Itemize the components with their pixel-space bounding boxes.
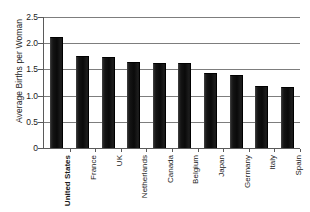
plot-area [44, 17, 300, 148]
y-axis-tick-label: 1.5 [18, 65, 38, 73]
x-axis-category-label: UK [113, 155, 126, 166]
y-axis-tick-labels: 2.52.01.51.00.50 [18, 0, 38, 212]
x-axis-category-label: Spain [292, 155, 305, 175]
x-axis-category-label: Japan [215, 155, 228, 177]
chart-title [0, 0, 310, 6]
y-axis-tick-mark [38, 148, 43, 149]
bar[interactable] [255, 86, 268, 148]
x-axis-category-label: France [87, 155, 100, 180]
y-axis-tick-label: 2.0 [18, 39, 38, 47]
x-axis-tick-mark [70, 149, 71, 152]
y-axis-tick-label: 0.5 [18, 118, 38, 126]
x-axis-category-label: Germany [241, 155, 254, 188]
x-axis-category-label: United States [61, 155, 74, 206]
gridline [44, 17, 300, 18]
y-axis-tick-label: 2.5 [18, 13, 38, 21]
x-axis-tick-mark [223, 149, 224, 152]
y-axis-tick-mark [38, 122, 43, 123]
y-axis-tick-mark [38, 17, 43, 18]
bar[interactable] [281, 87, 294, 148]
x-axis-category-label: Belgium [189, 155, 202, 184]
x-axis-category-label: Italy [266, 155, 279, 170]
x-axis-tick-mark [249, 149, 250, 152]
y-axis-tick-mark [38, 43, 43, 44]
x-axis-tick-mark [172, 149, 173, 152]
y-axis-tick-label: 0 [18, 144, 38, 152]
x-axis-tick-mark [95, 149, 96, 152]
x-axis-tick-mark [121, 149, 122, 152]
bar-chart: Average Births per Woman 2.52.01.51.00.5… [0, 0, 310, 212]
bar[interactable] [102, 57, 115, 148]
y-axis-tick-mark [38, 69, 43, 70]
bar[interactable] [50, 37, 63, 148]
bar[interactable] [127, 62, 140, 148]
y-axis-tick-mark [38, 96, 43, 97]
bar[interactable] [153, 63, 166, 148]
x-axis-tick-mark [146, 149, 147, 152]
x-axis-category-label: Canada [164, 155, 177, 183]
x-axis-tick-mark [300, 149, 301, 152]
x-axis-tick-mark [198, 149, 199, 152]
bar[interactable] [76, 56, 89, 148]
bar[interactable] [230, 75, 243, 148]
bar[interactable] [204, 73, 217, 148]
gridline [44, 43, 300, 44]
x-axis-category-label: Netherlands [138, 155, 151, 198]
x-axis-tick-mark [274, 149, 275, 152]
y-axis-tick-label: 1.0 [18, 92, 38, 100]
bar[interactable] [178, 63, 191, 148]
